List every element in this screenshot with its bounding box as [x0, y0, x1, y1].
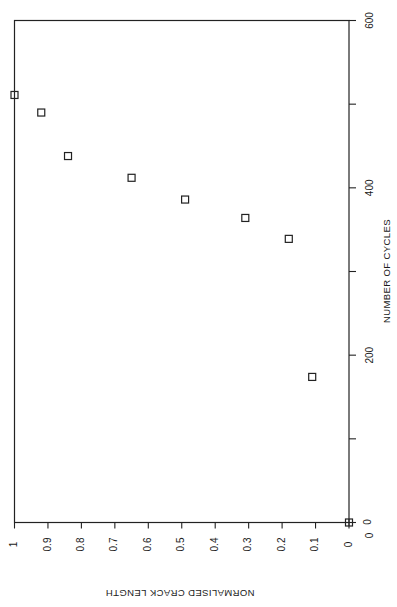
x-tick-label: 0.6 — [142, 537, 153, 551]
data-point-marker — [182, 196, 189, 203]
data-points — [11, 91, 353, 526]
data-point-marker — [309, 373, 316, 380]
x-tick-label: 0 — [343, 541, 354, 547]
y-axis-title: NUMBER OF CYCLES — [381, 219, 392, 323]
chart: 00.10.20.30.40.50.60.70.80.91 0200400600… — [0, 0, 397, 607]
x-axis-title: NORMALISED CRACK LENGTH — [105, 588, 254, 599]
y-tick-label: 400 — [364, 179, 375, 196]
plot-frame — [15, 21, 350, 523]
x-axis-ticks: 00.10.20.30.40.50.60.70.80.91 — [8, 523, 354, 552]
x-tick-label: 1 — [8, 541, 19, 547]
x-tick-label: 0.8 — [75, 537, 86, 551]
x-tick-label: 0.7 — [108, 537, 119, 551]
x-tick-label: 0.4 — [209, 537, 220, 551]
x-tick-label: 0.9 — [42, 537, 53, 551]
data-point-marker — [65, 153, 72, 160]
x-tick-label: 0.3 — [242, 537, 253, 551]
x-tick-label: 0.1 — [309, 537, 320, 551]
y-axis-ticks: 0200400600 — [349, 12, 375, 539]
origin-label: 0 — [362, 519, 373, 525]
data-point-marker — [128, 174, 135, 181]
y-tick-label: 200 — [364, 346, 375, 363]
y-tick-label: 600 — [364, 12, 375, 29]
data-point-marker — [38, 109, 45, 116]
data-point-marker — [242, 214, 249, 221]
x-tick-label: 0.5 — [175, 537, 186, 551]
x-tick-label: 0.2 — [276, 537, 287, 551]
data-point-marker — [285, 235, 292, 242]
y-tick-label: 0 — [364, 532, 375, 538]
